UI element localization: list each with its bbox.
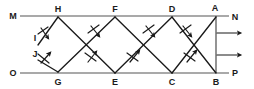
- label-G: G: [54, 78, 61, 87]
- ray-path-lower: [38, 17, 216, 73]
- label-M: M: [9, 12, 17, 21]
- exit-arrows: [217, 33, 240, 55]
- label-N: N: [232, 13, 239, 22]
- label-C: C: [169, 78, 176, 87]
- label-E: E: [112, 78, 118, 87]
- label-H: H: [55, 5, 62, 14]
- diagram-canvas: M H F D A N I J O G E C B P: [0, 0, 254, 89]
- ray-direction-arrows: [38, 25, 196, 63]
- label-I: I: [34, 34, 37, 43]
- ray-I-to-H: [38, 17, 58, 45]
- label-B: B: [213, 78, 220, 87]
- tick-F-C: [143, 25, 154, 33]
- label-O: O: [9, 69, 16, 78]
- label-D: D: [169, 5, 176, 14]
- label-J: J: [32, 50, 37, 59]
- tick-H-E: [88, 25, 99, 33]
- label-F: F: [112, 5, 118, 14]
- label-A: A: [212, 4, 219, 13]
- label-P: P: [232, 69, 238, 78]
